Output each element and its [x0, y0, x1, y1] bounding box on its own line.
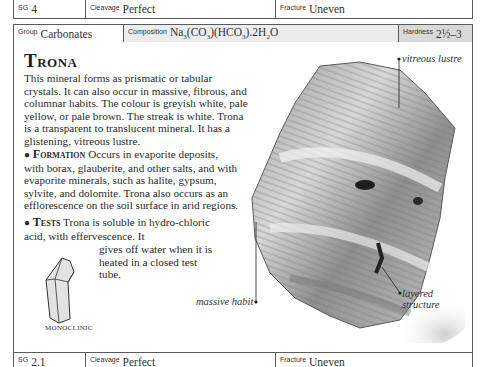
- fracture-value: Uneven: [309, 3, 345, 15]
- cleavage-label: Cleavage: [90, 356, 120, 363]
- composition-value: Na3(CO3)(HCO3).2H2O: [170, 26, 278, 41]
- hardness-cell: Hardness 2½–3: [399, 25, 472, 42]
- cleavage-label: Cleavage: [90, 4, 120, 11]
- tests-text-continued: gives off water when it is heated in a c…: [99, 243, 219, 281]
- fracture-cell: Fracture Uneven: [276, 0, 472, 18]
- composition-label: Composition: [128, 28, 167, 35]
- hardness-label: Hardness: [403, 28, 433, 35]
- layered-label: layered: [402, 288, 440, 299]
- monoclinic-crystal-icon: [40, 255, 105, 325]
- bullet-icon: ●: [24, 149, 30, 160]
- mineral-description: This mineral forms as prismatic or tabul…: [24, 72, 249, 148]
- sg-label: SG: [18, 356, 28, 363]
- mineral-title: Trona: [24, 50, 77, 72]
- layered-structure-callout: layered structure: [402, 288, 440, 310]
- fracture-cell: Fracture Uneven: [276, 353, 472, 367]
- cleavage-cell: Cleavage Perfect: [86, 353, 276, 367]
- bullet-icon: ●: [24, 217, 30, 228]
- formation-heading: Formation: [33, 147, 86, 161]
- fracture-label: Fracture: [280, 4, 306, 11]
- hardness-value: 2½–3: [436, 28, 462, 40]
- group-label: Group: [18, 28, 37, 35]
- sg-value: 4: [31, 3, 37, 15]
- fracture-value: Uneven: [309, 356, 345, 367]
- mineral-properties-strip: SG 2.1 Cleavage Perfect Fracture Uneven: [13, 352, 473, 367]
- composition-cell: Composition Na3(CO3)(HCO3).2H2O: [124, 25, 399, 42]
- cleavage-value: Perfect: [123, 356, 156, 367]
- cleavage-value: Perfect: [123, 3, 156, 15]
- mineral-header-row: Group Carbonates Composition Na3(CO3)(HC…: [13, 24, 473, 43]
- fracture-label: Fracture: [280, 356, 306, 363]
- formation-section: ● Formation Occurs in evaporite deposits…: [24, 148, 239, 212]
- sg-label: SG: [18, 4, 28, 11]
- tests-heading: Tests: [33, 215, 61, 229]
- group-value: Carbonates: [40, 28, 92, 40]
- tests-section: ● Tests Trona is soluble in hydro-chlori…: [24, 216, 229, 242]
- crystal-system-label: MONOCLINIC: [45, 324, 93, 332]
- previous-mineral-properties-strip: SG 4 Cleavage Perfect Fracture Uneven: [13, 0, 473, 19]
- sg-value: 2.1: [31, 356, 45, 367]
- sg-cell: SG 4: [14, 0, 86, 18]
- cleavage-cell: Cleavage Perfect: [86, 0, 276, 18]
- sg-cell: SG 2.1: [14, 353, 86, 367]
- structure-label: structure: [402, 299, 440, 310]
- group-cell: Group Carbonates: [14, 25, 124, 42]
- massive-habit-callout: massive habit: [196, 296, 253, 307]
- vitreous-lustre-callout: vitreous lustre: [402, 53, 462, 64]
